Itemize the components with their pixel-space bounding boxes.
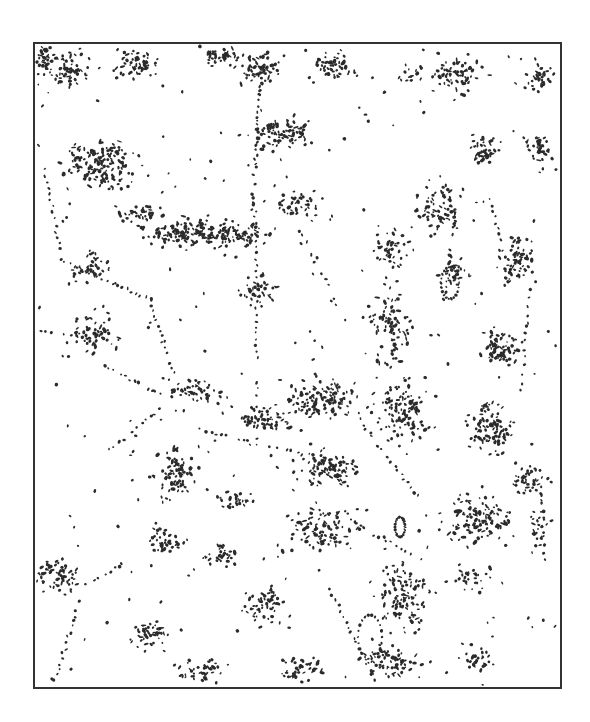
map-figure	[0, 0, 590, 722]
map-background	[0, 0, 590, 722]
settlement-pattern-map	[0, 0, 590, 722]
